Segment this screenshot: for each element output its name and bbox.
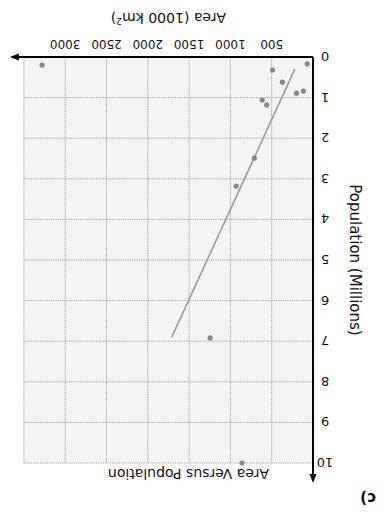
y-axis-label: Area (1000 km2) <box>111 10 226 26</box>
data-point <box>234 184 239 189</box>
chart-title: Area Versus Population <box>108 466 269 482</box>
data-point <box>264 102 269 107</box>
population-tick-label: 7 <box>321 333 329 348</box>
figure-label: c) <box>360 489 376 507</box>
data-point <box>294 91 299 96</box>
area-tick-label: 1000 <box>215 37 246 51</box>
data-point <box>208 335 213 340</box>
data-point <box>260 97 265 102</box>
data-point <box>252 155 257 160</box>
population-tick-label: 5 <box>321 252 329 267</box>
area-tick-label: 1500 <box>174 37 205 51</box>
scatter-chart: 01234567891050010001500200025003000 Area… <box>0 0 388 518</box>
data-point <box>239 460 244 465</box>
data-point <box>301 89 306 94</box>
population-tick-label: 2 <box>321 130 329 145</box>
population-tick-label: 6 <box>321 293 329 308</box>
population-tick-label: 3 <box>321 171 329 186</box>
population-tick-label: 0 <box>321 49 329 64</box>
population-tick-label: 4 <box>321 211 329 226</box>
area-tick-label: 2500 <box>91 37 122 51</box>
data-point <box>305 61 310 66</box>
population-tick-label: 8 <box>321 374 329 389</box>
x-axis-label: Population (Millions) <box>346 184 364 335</box>
data-point <box>280 80 285 85</box>
data-point <box>270 67 275 72</box>
data-point <box>39 63 44 68</box>
population-tick-label: 1 <box>321 90 329 105</box>
area-tick-label: 500 <box>260 37 283 51</box>
population-tick-label: 10 <box>317 455 334 470</box>
area-tick-label: 2000 <box>133 37 164 51</box>
population-tick-label: 9 <box>321 414 329 429</box>
area-tick-label: 3000 <box>50 37 81 51</box>
rotated-figure: 01234567891050010001500200025003000 Area… <box>0 0 388 518</box>
